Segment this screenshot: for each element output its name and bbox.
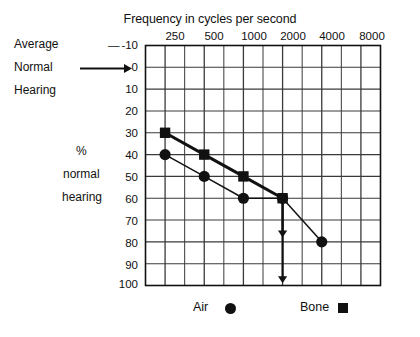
legend-label-bone: Bone — [300, 300, 329, 314]
data-point-air-circle — [316, 236, 327, 247]
plot-area — [0, 0, 420, 337]
data-point-air-circle — [199, 171, 210, 182]
data-point-bone-square — [160, 128, 170, 138]
legend-label-air: Air — [193, 300, 208, 314]
data-point-bone-square — [238, 171, 248, 181]
grid — [146, 46, 381, 286]
data-point-bone-square — [199, 149, 209, 159]
data-point-air-circle — [159, 149, 170, 160]
no-response-arrow-long-head — [278, 276, 287, 283]
legend-marker-air-circle-icon — [225, 303, 236, 314]
data-point-air-circle — [238, 193, 249, 204]
audiogram-chart: Frequency in cycles per second Average N… — [0, 0, 420, 337]
legend-marker-bone-square-icon — [338, 303, 348, 313]
annotation-layer — [278, 198, 287, 283]
